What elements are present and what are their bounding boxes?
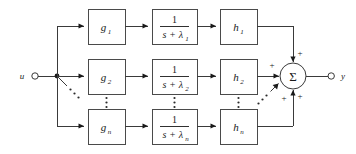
transfer-block-n-den-sub: n <box>185 135 189 143</box>
ellipsis-input-branch-dot-2 <box>73 92 75 94</box>
ellipsis-output-column-dot-1 <box>237 97 239 99</box>
output-label: y <box>340 71 345 81</box>
arrowhead-sum-left <box>274 73 280 78</box>
gain-block-n <box>88 109 125 144</box>
transfer-block-1-den-symbol: λ <box>178 29 184 40</box>
input-label: u <box>20 71 25 81</box>
gain-block-2-sub: 2 <box>108 78 112 86</box>
transfer-block-2-numerator: 1 <box>172 64 177 75</box>
ellipsis-sum-branch-dot-3 <box>257 102 259 104</box>
input-terminal <box>32 73 38 79</box>
block-diagram-canvas: u g 1 1 s + λ 1 <box>0 0 356 154</box>
transfer-block-n-den-symbol: λ <box>178 129 184 140</box>
ellipsis-input-branch-stub <box>59 78 67 86</box>
arrowhead-transfer-1 <box>143 23 149 28</box>
transfer-block-n-numerator: 1 <box>172 114 177 125</box>
transfer-block-2-den-symbol: λ <box>178 79 184 90</box>
ellipsis-transfer-column-dot-1 <box>173 97 175 99</box>
transfer-block-2-den-sub: 2 <box>185 85 189 93</box>
arrowhead-output-n <box>211 123 217 128</box>
ellipsis-gain-column-dot-1 <box>105 97 107 99</box>
gain-block-2-base: g <box>101 71 107 83</box>
arrowhead-gain-n <box>79 123 85 128</box>
transfer-block-n-den-lead: s <box>163 129 167 140</box>
ellipsis-sum-branch-dot-1 <box>265 94 267 96</box>
ellipsis-gain-column-dot-3 <box>105 106 107 108</box>
arrowhead-output-2 <box>211 73 217 78</box>
output-block-n-base: h <box>233 121 239 133</box>
ellipsis-input-branch-dot-3 <box>77 96 79 98</box>
gain-block-1-sub: 1 <box>108 28 112 36</box>
output-block-1-base: h <box>233 21 239 33</box>
arrowhead-transfer-2 <box>143 73 149 78</box>
gain-block-n-sub: n <box>108 128 112 136</box>
transfer-block-n-den-op: + <box>170 129 176 140</box>
gain-block-2 <box>88 59 125 94</box>
arrowhead-gain-2 <box>79 73 85 78</box>
block-diagram-figure: u g 1 1 s + λ 1 <box>0 0 356 154</box>
sum-sign-bottom: + <box>297 91 302 101</box>
ellipsis-transfer-column-dot-3 <box>173 106 175 108</box>
transfer-block-1-den-lead: s <box>163 29 167 40</box>
ellipsis-input-branch-dot-1 <box>69 88 71 90</box>
sum-sign-top: + <box>297 48 302 58</box>
arrowhead-gain-1 <box>79 23 85 28</box>
arrowhead-sum-top <box>290 57 295 63</box>
transfer-block-1-numerator: 1 <box>172 14 177 25</box>
transfer-block-1-den-sub: 1 <box>185 35 189 43</box>
output-block-2-base: h <box>233 71 239 83</box>
arrowhead-sum-bottom <box>290 90 295 96</box>
ellipsis-transfer-column-dot-2 <box>173 101 175 103</box>
summing-junction-symbol: Σ <box>289 69 297 84</box>
sum-sign-diagonal: + <box>281 93 286 103</box>
output-block-n-sub: n <box>240 128 244 136</box>
output-block-2-sub: 2 <box>240 78 244 86</box>
transfer-block-2-den-op: + <box>170 79 176 90</box>
gain-block-1-base: g <box>101 21 107 33</box>
ellipsis-gain-column-dot-2 <box>105 101 107 103</box>
output-terminal <box>328 73 334 79</box>
ellipsis-output-column-dot-2 <box>237 101 239 103</box>
arrowhead-output-1 <box>211 23 217 28</box>
sum-sign-left: + <box>269 60 274 70</box>
ellipsis-output-column-dot-3 <box>237 106 239 108</box>
transfer-block-2-den-lead: s <box>163 79 167 90</box>
transfer-block-1-den-op: + <box>170 29 176 40</box>
gain-block-1 <box>88 9 125 44</box>
arrowhead-transfer-n <box>143 123 149 128</box>
ellipsis-sum-branch-dot-2 <box>261 98 263 100</box>
gain-block-n-base: g <box>101 121 107 133</box>
output-block-1-sub: 1 <box>240 28 244 36</box>
